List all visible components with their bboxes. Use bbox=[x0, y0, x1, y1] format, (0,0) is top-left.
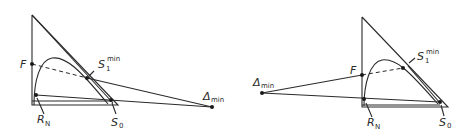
right-operating-line-lower bbox=[262, 93, 440, 102]
right-label-S0: S bbox=[439, 116, 446, 129]
right-label-RN-sub: N bbox=[375, 123, 380, 131]
left-label-S0-sub: 0 bbox=[119, 122, 123, 130]
left-label-delta: Δ bbox=[202, 90, 211, 103]
left-label-S1: S bbox=[98, 58, 105, 71]
left-point-S1min bbox=[85, 76, 89, 80]
right-hypotenuse-inner bbox=[408, 66, 440, 103]
left-point-F bbox=[30, 62, 34, 66]
right-label-S0-sub: 0 bbox=[447, 122, 451, 130]
right-label-S1-sub: 1 bbox=[425, 57, 429, 65]
right-ternary-diagram: F S 1 min Δ min R N S 0 bbox=[252, 17, 451, 131]
left-arrow-S1min bbox=[89, 71, 94, 76]
right-point-RN bbox=[362, 97, 366, 101]
left-point-delta-min bbox=[210, 105, 214, 109]
right-label-S1: S bbox=[417, 50, 424, 63]
ternary-diagrams: F S 1 min Δ min R N S 0 F bbox=[0, 0, 469, 140]
right-label-F: F bbox=[350, 64, 357, 77]
left-label-RN: R bbox=[37, 113, 45, 126]
right-point-S1min bbox=[401, 66, 405, 70]
right-dashed-line bbox=[362, 68, 403, 75]
left-arrow-RN bbox=[37, 98, 44, 114]
left-label-RN-sub: N bbox=[45, 120, 50, 128]
right-label-delta-sub: min bbox=[261, 82, 274, 90]
left-label-S1-sup: min bbox=[107, 55, 120, 63]
left-label-S1-sub: 1 bbox=[106, 65, 110, 73]
right-point-S0 bbox=[438, 100, 442, 104]
left-label-F: F bbox=[20, 58, 27, 71]
right-point-delta-min bbox=[260, 91, 264, 95]
right-triangle bbox=[362, 17, 448, 107]
left-label-S0: S bbox=[111, 116, 118, 129]
left-ternary-diagram: F S 1 min Δ min R N S 0 bbox=[20, 15, 224, 130]
left-point-S0 bbox=[109, 98, 113, 102]
right-label-S1-sup: min bbox=[426, 48, 439, 56]
right-operating-line-upper bbox=[262, 75, 362, 93]
right-point-F bbox=[360, 73, 364, 77]
right-arrow-S1min bbox=[409, 58, 415, 63]
left-point-RN bbox=[34, 93, 38, 97]
left-label-delta-sub: min bbox=[211, 96, 224, 104]
right-label-delta: Δ bbox=[252, 76, 261, 89]
right-label-RN: R bbox=[367, 116, 375, 129]
